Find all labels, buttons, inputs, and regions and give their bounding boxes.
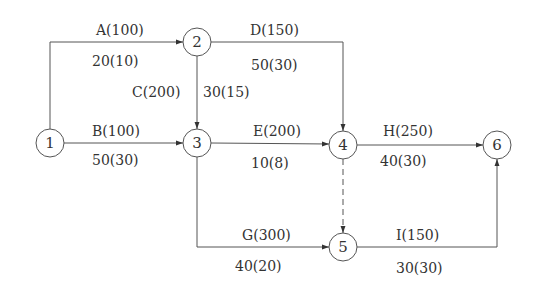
label-D-detail: 50(30): [251, 57, 298, 73]
label-E-detail: 10(8): [251, 155, 289, 171]
node-6: 6: [483, 131, 511, 159]
label-C-name: C(200): [132, 84, 180, 100]
network-diagram: 1 2 3 4 5 6 A(100) 20(10) B(100) 50(30) …: [0, 0, 535, 297]
label-G-name: G(300): [242, 227, 291, 243]
svg-text:2: 2: [192, 33, 202, 51]
svg-text:4: 4: [338, 136, 348, 154]
svg-text:5: 5: [338, 238, 348, 256]
label-B-name: B(100): [92, 123, 140, 139]
label-A-name: A(100): [95, 22, 144, 38]
label-I-name: I(150): [396, 227, 439, 243]
label-B-detail: 50(30): [92, 152, 139, 168]
label-H-name: H(250): [383, 123, 433, 139]
node-2: 2: [183, 28, 211, 56]
label-I-detail: 30(30): [396, 260, 443, 276]
node-1: 1: [36, 129, 64, 157]
node-3: 3: [183, 129, 211, 157]
label-E-name: E(200): [253, 123, 301, 139]
label-D-name: D(150): [250, 22, 299, 38]
svg-text:3: 3: [192, 134, 202, 152]
node-5: 5: [329, 233, 357, 261]
label-G-detail: 40(20): [235, 258, 282, 274]
label-A-detail: 20(10): [92, 53, 139, 69]
label-C-detail: 30(15): [203, 84, 250, 100]
svg-text:6: 6: [492, 136, 502, 154]
svg-text:1: 1: [45, 134, 55, 152]
node-4: 4: [329, 131, 357, 159]
label-H-detail: 40(30): [380, 153, 427, 169]
edge-E: [211, 143, 329, 144]
